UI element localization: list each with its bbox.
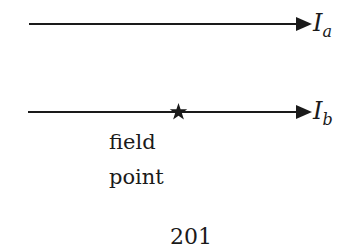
page-number: 201 [170, 226, 212, 248]
field-point-label-line2: point [109, 167, 164, 188]
wire-b [28, 105, 312, 119]
current-label-a: Ia [313, 11, 332, 40]
arrowhead-a-icon [296, 17, 312, 31]
current-label-b: Ib [313, 99, 333, 128]
two-wire-diagram: Ia Ib field point 201 [0, 0, 355, 252]
wire-a [29, 17, 312, 31]
wire-arrows [0, 0, 355, 252]
arrowhead-b-icon [296, 105, 312, 119]
field-point-label-line1: field [109, 132, 156, 153]
